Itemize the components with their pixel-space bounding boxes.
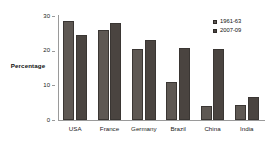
- bar-group: [92, 16, 126, 120]
- y-axis-title: Percentage: [4, 62, 52, 69]
- legend-label: 2007-09: [220, 26, 241, 35]
- y-tick-label: 20: [30, 47, 50, 53]
- bar: [63, 21, 74, 120]
- bar: [201, 106, 212, 120]
- bar: [76, 35, 87, 120]
- bar-group: [127, 16, 161, 120]
- bar-chart-figure: Percentage 0102030 USAFranceGermanyBrazi…: [0, 0, 275, 143]
- bar: [248, 97, 259, 120]
- y-tick: [52, 16, 55, 17]
- y-tick-label: 0: [30, 117, 50, 123]
- bar: [213, 49, 224, 120]
- chart-legend: 1961-63 2007-09: [213, 17, 241, 35]
- y-tick: [52, 120, 55, 121]
- bar: [98, 30, 109, 120]
- bar: [235, 105, 246, 120]
- bar: [166, 82, 177, 120]
- x-tick-label: India: [224, 125, 270, 132]
- legend-item: 2007-09: [213, 26, 241, 35]
- bar-group: [161, 16, 195, 120]
- legend-label: 1961-63: [220, 17, 241, 26]
- legend-swatch-icon: [213, 20, 217, 24]
- legend-swatch-icon: [213, 29, 217, 33]
- bar: [145, 40, 156, 120]
- y-tick-label: 10: [30, 82, 50, 88]
- y-tick: [52, 51, 55, 52]
- bar: [110, 23, 121, 120]
- bar: [179, 48, 190, 120]
- x-axis-line: [58, 120, 265, 121]
- legend-item: 1961-63: [213, 17, 241, 26]
- bar-group: [58, 16, 92, 120]
- y-tick-label: 30: [30, 13, 50, 19]
- bar: [132, 49, 143, 120]
- y-tick: [52, 85, 55, 86]
